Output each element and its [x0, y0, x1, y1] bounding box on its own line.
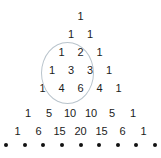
- triangle-cell: 20: [70, 125, 91, 137]
- triangle-cell: 1: [133, 125, 154, 137]
- triangle-cell: 15: [49, 125, 70, 137]
- continuation-dot: [134, 143, 138, 147]
- triangle-cell: 6: [71, 82, 90, 94]
- triangle-cell: 1: [81, 28, 100, 40]
- triangle-cell: 2: [71, 46, 90, 58]
- triangle-cell: 1: [100, 64, 119, 76]
- triangle-rows: 1 1 1 1 2 1 1 3 3 1 1 4 6 4 1 1 5 10: [0, 0, 161, 158]
- triangle-row: 1 1: [0, 28, 161, 40]
- triangle-cell: 1: [52, 46, 71, 58]
- triangle-cell: 1: [62, 28, 81, 40]
- triangle-cell: 10: [81, 107, 102, 119]
- continuation-dots-row: [0, 143, 161, 147]
- triangle-cell: 3: [62, 64, 81, 76]
- triangle-row: 1 4 6 4 1: [0, 82, 161, 94]
- triangle-cell: 10: [60, 107, 81, 119]
- continuation-dot: [153, 143, 157, 147]
- triangle-cell: 15: [91, 125, 112, 137]
- triangle-row: 1 3 3 1: [0, 64, 161, 76]
- triangle-cell: 6: [28, 125, 49, 137]
- triangle-cell: 1: [43, 64, 62, 76]
- pascals-triangle-figure: 1 1 1 1 2 1 1 3 3 1 1 4 6 4 1 1 5 10: [0, 0, 161, 158]
- triangle-cell: 1: [123, 107, 144, 119]
- triangle-row: 1 5 10 10 5 1: [0, 107, 161, 119]
- triangle-cell: 5: [102, 107, 123, 119]
- continuation-dot: [60, 143, 64, 147]
- triangle-row: 1 2 1: [0, 46, 161, 58]
- continuation-dot: [97, 143, 101, 147]
- triangle-cell: 1: [33, 82, 52, 94]
- triangle-cell: 1: [18, 107, 39, 119]
- triangle-cell: 6: [112, 125, 133, 137]
- triangle-cell: 1: [7, 125, 28, 137]
- triangle-cell: 1: [109, 82, 128, 94]
- continuation-dot: [23, 143, 27, 147]
- continuation-dot: [41, 143, 45, 147]
- triangle-cell: 1: [71, 10, 90, 22]
- triangle-row: 1: [0, 10, 161, 22]
- triangle-cell: 5: [39, 107, 60, 119]
- triangle-row: 1 6 15 20 15 6 1: [0, 125, 161, 137]
- triangle-cell: 4: [52, 82, 71, 94]
- triangle-cell: 3: [81, 64, 100, 76]
- continuation-dot: [4, 143, 8, 147]
- continuation-dot: [79, 143, 83, 147]
- continuation-dot: [116, 143, 120, 147]
- triangle-cell: 4: [90, 82, 109, 94]
- triangle-cell: 1: [90, 46, 109, 58]
